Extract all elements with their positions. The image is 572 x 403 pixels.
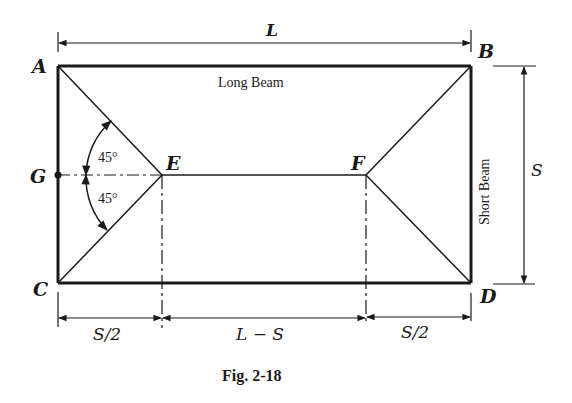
label-B: B <box>477 40 494 62</box>
figure-caption: Fig. 2-18 <box>222 367 282 385</box>
line-BF <box>366 66 471 175</box>
label-D: D <box>479 285 497 307</box>
label-A: A <box>30 55 47 77</box>
label-E: E <box>165 152 181 174</box>
angle-label-upper: 45° <box>98 150 118 165</box>
yield-lines <box>58 66 471 283</box>
slab-diagram: A B C D E F G Long Beam Short Beam 45° 4… <box>0 0 572 403</box>
label-G: G <box>30 165 46 187</box>
dim-LS-label: L − S <box>235 324 284 344</box>
dim-S-label: S <box>531 160 543 180</box>
label-C: C <box>33 278 48 300</box>
dim-S2-right-label: S/2 <box>401 322 429 342</box>
angle-arc-upper <box>86 121 111 175</box>
point-G-dot <box>55 172 62 179</box>
label-F: F <box>350 152 366 174</box>
short-beam-label: Short Beam <box>477 158 492 225</box>
line-DF <box>366 175 471 283</box>
dim-L-label: L <box>265 20 278 40</box>
long-beam-label: Long Beam <box>218 75 284 90</box>
angle-label-lower: 45° <box>98 191 118 206</box>
dim-S2-left-label: S/2 <box>93 324 121 344</box>
